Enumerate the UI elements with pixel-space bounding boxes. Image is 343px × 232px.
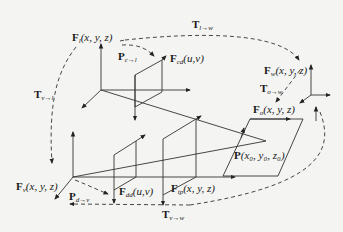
label-transform-T-l-w: Tl→w <box>192 18 213 32</box>
label-transform-P-d-v: Pd→v <box>69 190 90 204</box>
label-frame-cd: Fcd(u,v) <box>170 52 204 66</box>
label-frame-object: Fo(x, y, z) <box>253 103 295 117</box>
frame-diagram: Fl(x, y, z) Pc→l Fcd(u,v) Tl→w Fw(x, y, … <box>0 0 343 232</box>
label-frame-world: Fw(x, y, z) <box>264 64 308 78</box>
diagram-canvas: Fl(x, y, z) Pc→l Fcd(u,v) Tl→w Fw(x, y, … <box>0 0 343 232</box>
label-frame-vehicle: Fv(x, y, z) <box>16 180 58 194</box>
label-point-P: P(x₀, y₀, z₀) <box>234 149 285 162</box>
camera-cd-plane <box>135 56 166 120</box>
label-transform-T-v-w: Tv→w <box>162 208 184 222</box>
label-frame-lidar: Fl(x, y, z) <box>72 31 113 45</box>
label-frame-tp: Ftp(x, y, z) <box>171 182 215 196</box>
label-transform-T-v-l: Tv→l <box>34 88 53 102</box>
label-transform-P-c-l: Pc→l <box>118 50 137 64</box>
object-plane <box>223 119 303 176</box>
label-frame-dd: Fdd(u,v) <box>119 185 154 199</box>
vehicle-frame-axes <box>55 132 266 199</box>
label-transform-T-o-w: To→w <box>260 82 283 96</box>
